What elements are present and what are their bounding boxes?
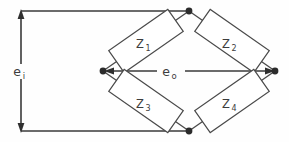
impedance-z1-label: Z: [136, 37, 144, 51]
impedance-z4-label: Z: [222, 97, 230, 111]
output-voltage-label: e: [162, 64, 170, 79]
wheatstone-bridge-diagram: Z 1 Z 2 Z 3 Z 4 e i e o: [0, 0, 289, 142]
node-dot-right: [272, 68, 279, 75]
impedance-z2-label: Z: [222, 37, 230, 51]
circuit-svg: Z 1 Z 2 Z 3 Z 4 e i e o: [0, 0, 289, 142]
output-voltage-subscript: o: [171, 71, 176, 81]
impedance-z2-subscript: 2: [231, 44, 236, 53]
node-dot-top: [186, 8, 193, 15]
impedance-z3-label: Z: [136, 97, 144, 111]
input-voltage-subscript: i: [23, 71, 25, 81]
impedance-z2-body: [195, 9, 269, 72]
impedance-z1-subscript: 1: [145, 44, 150, 53]
impedance-z2: [195, 9, 269, 72]
input-voltage-label: e: [13, 64, 21, 79]
node-dot-bottom: [186, 128, 193, 135]
node-dot-left: [100, 68, 107, 75]
impedance-z4-subscript: 4: [231, 104, 236, 113]
impedance-z3-subscript: 3: [145, 104, 150, 113]
impedance-z4: [195, 69, 269, 132]
impedance-z4-body: [195, 69, 269, 132]
